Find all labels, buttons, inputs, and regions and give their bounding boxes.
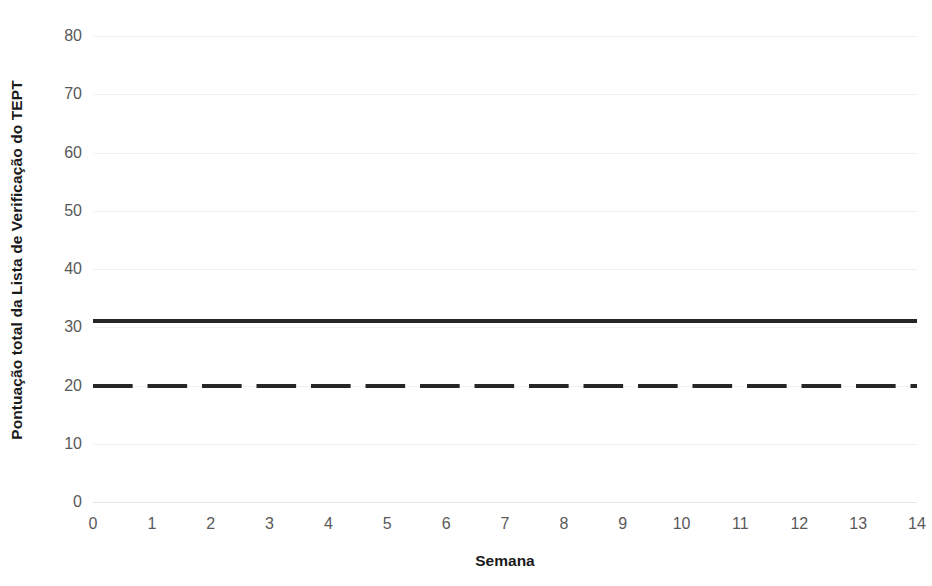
chart-container: Pontuação total da Lista de Verificação … (0, 0, 932, 586)
x-tick-label-0: 0 (73, 514, 113, 533)
x-tick-label-8: 8 (544, 514, 584, 533)
y-tick-label-50: 50 (38, 203, 82, 219)
x-tick-label-5: 5 (367, 514, 407, 533)
y-tick-label-60: 60 (38, 145, 82, 161)
x-axis-tick-labels: 01234567891011121314 (93, 514, 917, 538)
y-tick-label-0: 0 (38, 494, 82, 510)
y-tick-label-40: 40 (38, 261, 82, 277)
x-axis-title: Semana (93, 552, 917, 570)
x-tick-label-13: 13 (838, 514, 878, 533)
x-tick-label-1: 1 (132, 514, 172, 533)
y-tick-label-20: 20 (38, 378, 82, 394)
gridline-50 (93, 211, 917, 212)
x-tick-label-11: 11 (720, 514, 760, 533)
gridline-70 (93, 94, 917, 95)
x-axis-baseline (93, 502, 917, 503)
x-tick-label-2: 2 (191, 514, 231, 533)
y-tick-label-30: 30 (38, 319, 82, 335)
y-axis-tick-labels: 01020304050607080 (30, 0, 82, 586)
y-axis-title: Pontuação total da Lista de Verificação … (0, 0, 34, 520)
series-solid-threshold-line (93, 319, 917, 323)
series-dashed-threshold-line (93, 384, 917, 388)
x-tick-label-14: 14 (897, 514, 932, 533)
gridline-60 (93, 153, 917, 154)
y-tick-label-10: 10 (38, 436, 82, 452)
x-tick-label-7: 7 (485, 514, 525, 533)
x-tick-label-4: 4 (308, 514, 348, 533)
y-tick-label-80: 80 (38, 28, 82, 44)
x-tick-label-6: 6 (426, 514, 466, 533)
gridline-30 (93, 327, 917, 328)
y-tick-label-70: 70 (38, 86, 82, 102)
gridline-80 (93, 36, 917, 37)
x-tick-label-10: 10 (662, 514, 702, 533)
gridline-10 (93, 444, 917, 445)
y-axis-title-text: Pontuação total da Lista de Verificação … (8, 80, 26, 440)
x-tick-label-9: 9 (603, 514, 643, 533)
x-tick-label-3: 3 (250, 514, 290, 533)
gridline-40 (93, 269, 917, 270)
plot-area (93, 0, 917, 502)
x-tick-label-12: 12 (779, 514, 819, 533)
